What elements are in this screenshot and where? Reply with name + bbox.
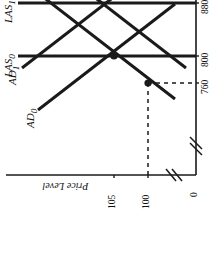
x-tick-label-800: 800: [200, 53, 210, 67]
as-ad-plot: [0, 0, 211, 211]
y-axis-title: Price Level: [21, 181, 111, 192]
figure-canvas: LAS0 LAS1 SAS0 SAS1 AD0 AD1 100 105 0 76…: [0, 0, 211, 263]
y-tick-label-100: 100: [141, 195, 151, 209]
curve-label-las1-text: LAS: [2, 5, 14, 23]
curve-label-ad0-sub: 0: [29, 109, 39, 114]
y-tick-label-105: 105: [107, 195, 117, 209]
curve-label-las0-sub: 0: [7, 54, 17, 59]
x-tick-label-760: 760: [200, 80, 210, 94]
curve-label-ad0-text: AD: [24, 113, 36, 128]
rotated-chart-container: LAS0 LAS1 SAS0 SAS1 AD0 AD1 100 105 0 76…: [0, 0, 211, 211]
origin-tick-label: 0: [189, 192, 199, 197]
curve-label-ad0: AD0: [24, 109, 39, 128]
equilibrium-point-initial: [110, 52, 117, 59]
curve-label-ad1: AD1: [6, 66, 21, 85]
curve-label-las1-sub: 1: [7, 0, 17, 5]
curve-sas0: [38, 0, 175, 99]
x-tick-label-880: 880: [200, 0, 210, 14]
curve-label-ad1-sub: 1: [11, 66, 21, 71]
curve-label-ad1-text: AD: [6, 70, 18, 85]
curve-label-las1: LAS1: [2, 0, 17, 23]
equilibrium-point-second: [144, 79, 151, 86]
